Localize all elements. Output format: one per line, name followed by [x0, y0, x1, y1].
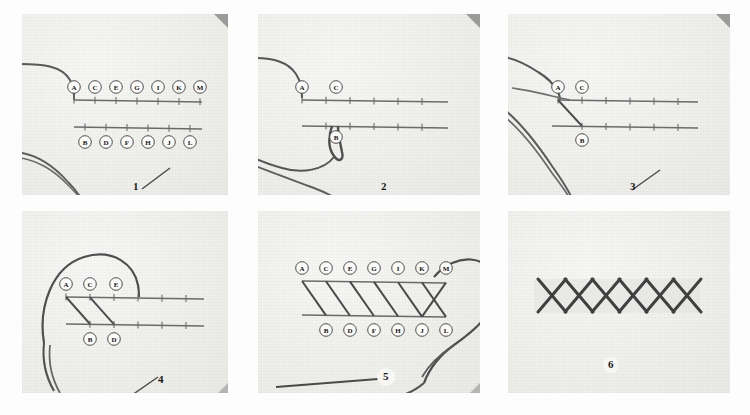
panel-6-photo: [508, 211, 730, 393]
guide-label: A: [71, 84, 76, 92]
guide-labels-bottom: B D F H J L: [320, 324, 453, 337]
guide-label: K: [419, 265, 425, 273]
guide-label: K: [176, 84, 182, 92]
panel-1: A C E G I K M B D F H J: [0, 0, 250, 203]
panel-6: 6: [500, 203, 750, 415]
guide-label: E: [348, 265, 353, 273]
guide-label: G: [134, 84, 140, 92]
guide-label: D: [111, 336, 116, 344]
guide-label: A: [299, 265, 304, 273]
panel-5-artwork: A C E G I K M B D F H J L: [258, 211, 480, 393]
guide-label: M: [443, 265, 450, 273]
guide-label: L: [188, 139, 193, 147]
panel-grid: A C E G I K M B D F H J: [0, 0, 750, 415]
guide-label: G: [371, 265, 377, 273]
guide-label: J: [420, 327, 424, 335]
panel-5: A C E G I K M B D F H J L: [250, 203, 500, 415]
panel-3: A C B 3: [500, 0, 750, 203]
guide-labels-top: A C E G I K M: [296, 262, 453, 275]
panel-2: A C B 2: [250, 0, 500, 203]
guide-label: M: [197, 84, 204, 92]
panel-number: 3: [630, 180, 636, 192]
guide-label: L: [444, 327, 449, 335]
guide-label: I: [397, 265, 400, 273]
guide-label: E: [114, 281, 119, 289]
guide-label: F: [372, 327, 376, 335]
guide-label: B: [324, 327, 329, 335]
panel-3-photo: A C B: [508, 14, 730, 195]
stitch-a-b: [558, 100, 582, 126]
guide-label: C: [333, 84, 338, 92]
panel-1-artwork: A C E G I K M B D F H J: [22, 14, 228, 195]
needle-icon: [276, 379, 378, 387]
guide-label: E: [114, 84, 119, 92]
guide-label: B: [334, 134, 339, 142]
guide-label: J: [167, 139, 171, 147]
guide-label: I: [157, 84, 160, 92]
panel-4-photo: A C E B D: [22, 211, 228, 393]
panel-2-photo: A C B: [258, 14, 480, 195]
guide-label: B: [83, 139, 88, 147]
panel-number: 5: [383, 370, 389, 382]
guide-label: C: [92, 84, 97, 92]
guide-label: A: [63, 281, 68, 289]
guide-label: A: [555, 84, 560, 92]
panel-number: 1: [133, 180, 139, 192]
figure-sheet: A C E G I K M B D F H J: [0, 0, 750, 415]
guide-label: A: [299, 84, 304, 92]
panel-1-photo: A C E G I K M B D F H J: [22, 14, 228, 195]
panel-number: 4: [158, 373, 164, 385]
guide-labels-bottom: B D F H J L: [79, 136, 197, 149]
guide-label: B: [88, 336, 93, 344]
guide-labels-top: A C E G I K M: [68, 81, 207, 94]
panel-number: 6: [608, 358, 614, 370]
panel-4: A C E B D 4: [0, 203, 250, 415]
stitch-row: [302, 281, 446, 317]
panel-2-artwork: A C B: [258, 14, 480, 195]
panel-4-artwork: A C E B D: [22, 211, 228, 393]
stitch-a-b: [66, 297, 90, 324]
guide-label: C: [87, 281, 92, 289]
panel-3-artwork: A C B: [508, 14, 730, 195]
stitch-c-d: [90, 297, 114, 324]
panel-5-photo: A C E G I K M B D F H J L: [258, 211, 480, 393]
guide-label: D: [103, 139, 108, 147]
guide-label: F: [125, 139, 129, 147]
guide-label: D: [347, 327, 352, 335]
panel-6-artwork: [508, 211, 730, 393]
guide-label: B: [580, 137, 585, 145]
guide-label: H: [145, 139, 151, 147]
guide-label: C: [579, 84, 584, 92]
guide-label: H: [395, 327, 401, 335]
guide-label: C: [323, 265, 328, 273]
panel-number: 2: [381, 180, 387, 192]
